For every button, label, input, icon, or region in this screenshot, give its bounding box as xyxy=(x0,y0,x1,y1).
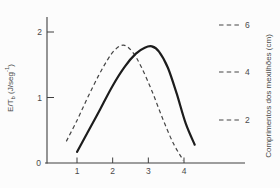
y-axis-label-base: E/T xyxy=(6,99,15,111)
y-axis-label: E/Tb (J/seg-1) xyxy=(4,64,16,112)
y-axis-label-sub: b xyxy=(10,96,16,99)
solid-curve xyxy=(77,46,195,152)
y-axis-label-sup: -1 xyxy=(4,67,10,72)
legend-label-6: 6 xyxy=(245,20,250,30)
x-tick-label: 2 xyxy=(110,166,115,176)
tick-marks xyxy=(47,32,184,163)
x-tick-label: 1 xyxy=(75,166,80,176)
y-axis-label-end: ) xyxy=(6,64,15,67)
y-tick-label: 1 xyxy=(37,93,42,103)
origin-label: 0 xyxy=(36,158,41,168)
legend: 6 4 2 xyxy=(219,20,250,125)
mussel-energy-chart: 1 2 3 4 2 1 0 6 4 2 E/Tb (J/seg-1) Compr… xyxy=(0,0,280,188)
legend-label-4: 4 xyxy=(245,67,250,77)
plot-svg: 1 2 3 4 2 1 0 6 4 2 xyxy=(0,0,280,188)
x-tick-label: 4 xyxy=(182,166,187,176)
y-tick-label: 2 xyxy=(37,27,42,37)
y-axis-label-mid: (J/seg xyxy=(6,72,15,96)
x-tick-label: 3 xyxy=(146,166,151,176)
legend-label-2: 2 xyxy=(245,115,250,125)
right-axis-label: Comprimentos dos mexilhões (cm) xyxy=(264,34,273,158)
